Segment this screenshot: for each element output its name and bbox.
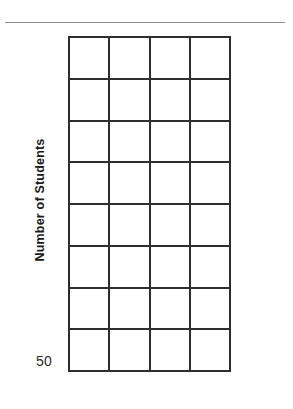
grid-cell	[70, 38, 110, 80]
y-axis-label: Number of Students	[33, 138, 47, 261]
grid-cell	[70, 205, 110, 247]
grid-cell	[110, 163, 150, 205]
grid-cell	[151, 330, 191, 372]
grid-cell	[110, 247, 150, 289]
grid-cell	[191, 247, 231, 289]
grid-cell	[191, 330, 231, 372]
top-horizontal-rule	[5, 22, 285, 23]
grid-cell	[70, 122, 110, 164]
grid-cell	[110, 122, 150, 164]
chart-plot-grid	[68, 36, 231, 372]
grid-cell	[70, 80, 110, 122]
grid-cell	[110, 330, 150, 372]
grid-cell	[191, 38, 231, 80]
grid-cell	[191, 205, 231, 247]
grid-cell	[70, 330, 110, 372]
grid-cell	[110, 38, 150, 80]
grid-cell	[191, 122, 231, 164]
grid-cell	[151, 205, 191, 247]
grid-cell	[191, 289, 231, 331]
grid-cell	[70, 247, 110, 289]
grid-cell	[70, 163, 110, 205]
grid-cell	[151, 289, 191, 331]
grid-cell	[151, 80, 191, 122]
grid-cell	[191, 163, 231, 205]
chart-page: Number of Students 50	[0, 0, 293, 409]
grid-cell	[110, 80, 150, 122]
grid-cell	[191, 80, 231, 122]
grid-cell	[110, 205, 150, 247]
grid-cell	[151, 122, 191, 164]
grid-cell	[110, 289, 150, 331]
grid-cell	[151, 247, 191, 289]
grid-cell	[151, 38, 191, 80]
grid-cell	[151, 163, 191, 205]
grid-cell	[70, 289, 110, 331]
y-axis-tick-label-50: 50	[36, 353, 52, 369]
